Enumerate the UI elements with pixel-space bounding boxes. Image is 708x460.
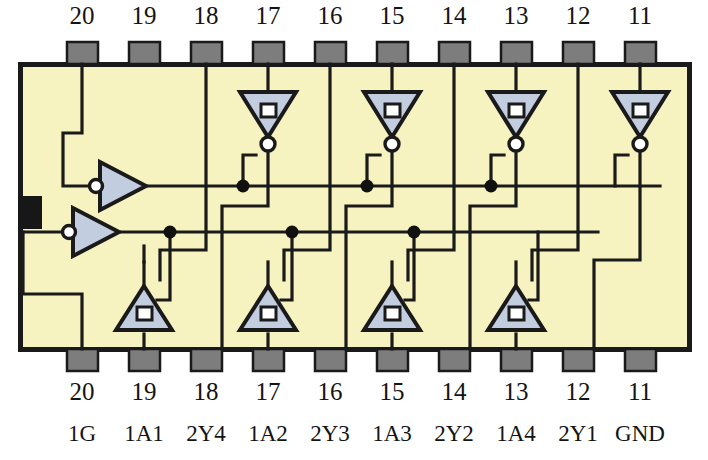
pin-number-bottom-7: 13 xyxy=(491,378,541,406)
pin-number-bottom-9: 11 xyxy=(615,378,665,406)
bottom-pin-pads xyxy=(67,349,656,371)
junction-dot xyxy=(286,226,299,239)
pad-bottom-17[interactable] xyxy=(253,349,284,371)
pad-bottom-18[interactable] xyxy=(191,349,222,371)
pad-top-18[interactable] xyxy=(191,42,222,64)
pad-top-12[interactable] xyxy=(563,42,594,64)
pin-number-bottom-8: 12 xyxy=(553,378,603,406)
pad-bottom-20[interactable] xyxy=(67,349,98,371)
tristate-enable-symbol-icon xyxy=(385,104,400,117)
pad-bottom-11[interactable] xyxy=(625,349,656,371)
pin-number-top-2: 18 xyxy=(181,2,231,30)
pad-bottom-12[interactable] xyxy=(563,349,594,371)
tristate-enable-symbol-icon xyxy=(509,104,524,117)
output-bubble-icon xyxy=(261,137,275,151)
pin-number-bottom-1: 19 xyxy=(119,378,169,406)
pad-top-11[interactable] xyxy=(625,42,656,64)
tristate-enable-symbol-icon xyxy=(633,104,648,117)
pin-number-top-8: 12 xyxy=(553,2,603,30)
pin-label-1a3: 1A3 xyxy=(357,421,427,447)
junction-dot xyxy=(361,180,374,193)
pad-top-19[interactable] xyxy=(129,42,160,64)
pin-label-1a4: 1A4 xyxy=(481,421,551,447)
pad-bottom-14[interactable] xyxy=(439,349,470,371)
output-bubble-icon xyxy=(633,137,647,151)
tristate-enable-symbol-icon xyxy=(261,104,276,117)
pad-top-17[interactable] xyxy=(253,42,284,64)
pad-top-20[interactable] xyxy=(67,42,98,64)
pin-number-top-1: 19 xyxy=(119,2,169,30)
pin-label-1a1: 1A1 xyxy=(109,421,179,447)
inverter-input-bubble-icon xyxy=(90,180,103,193)
pin-number-top-6: 14 xyxy=(429,2,479,30)
top-pin-pads xyxy=(67,42,656,64)
logic-diagram-canvas: 20 19 18 17 16 15 14 13 12 11 20 19 18 1… xyxy=(0,0,708,460)
pin-label-gnd: GND xyxy=(605,421,675,447)
tristate-enable-symbol-icon xyxy=(385,307,400,320)
pad-bottom-15[interactable] xyxy=(377,349,408,371)
pad-bottom-13[interactable] xyxy=(501,349,532,371)
output-bubble-icon xyxy=(509,137,523,151)
pin-number-bottom-3: 17 xyxy=(243,378,293,406)
pin-label-1a2: 1A2 xyxy=(233,421,303,447)
pin-label-1g: 1G xyxy=(47,421,117,447)
junction-dot xyxy=(164,226,177,239)
pin-number-bottom-0: 20 xyxy=(57,378,107,406)
pin-label-2y4: 2Y4 xyxy=(171,421,241,447)
pin-number-top-7: 13 xyxy=(491,2,541,30)
pin-number-bottom-5: 15 xyxy=(367,378,417,406)
output-bubble-icon xyxy=(385,137,399,151)
junction-dot xyxy=(237,180,250,193)
package-notch-icon xyxy=(18,196,42,229)
pin-number-top-0: 20 xyxy=(57,2,107,30)
pad-top-14[interactable] xyxy=(439,42,470,64)
pad-top-16[interactable] xyxy=(315,42,346,64)
pin-label-2y1: 2Y1 xyxy=(543,421,613,447)
pin-number-top-9: 11 xyxy=(615,2,665,30)
pad-bottom-19[interactable] xyxy=(129,349,160,371)
pad-top-13[interactable] xyxy=(501,42,532,64)
pin-number-bottom-4: 16 xyxy=(305,378,355,406)
pin-number-top-4: 16 xyxy=(305,2,355,30)
inverter-input-bubble-icon xyxy=(63,226,76,239)
pin-number-bottom-2: 18 xyxy=(181,378,231,406)
pin-label-2y3: 2Y3 xyxy=(295,421,365,447)
pad-bottom-16[interactable] xyxy=(315,349,346,371)
pin-number-top-5: 15 xyxy=(367,2,417,30)
pin-label-2y2: 2Y2 xyxy=(419,421,489,447)
pin-number-top-3: 17 xyxy=(243,2,293,30)
junction-dot xyxy=(485,180,498,193)
tristate-enable-symbol-icon xyxy=(509,307,524,320)
tristate-enable-symbol-icon xyxy=(137,307,152,320)
tristate-enable-symbol-icon xyxy=(261,307,276,320)
pad-top-15[interactable] xyxy=(377,42,408,64)
junction-dot xyxy=(408,226,421,239)
pin-number-bottom-6: 14 xyxy=(429,378,479,406)
